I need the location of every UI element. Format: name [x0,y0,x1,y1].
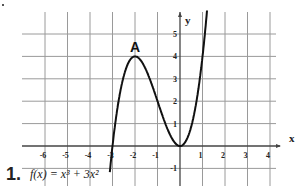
x-tick-label: -6 [40,151,47,160]
y-tick-label: 3 [173,75,177,84]
y-tick-label: 5 [173,30,177,39]
point-label-a: A [130,39,140,55]
x-tick-label: 1 [199,151,203,160]
y-tick-label: -1 [170,164,177,173]
problem-number: 1. [6,164,21,185]
y-tick-label: 1 [173,120,177,129]
x-axis-label: x [289,132,295,144]
x-tick-label: -4 [85,151,92,160]
x-tick-label: -5 [62,151,69,160]
x-tick-label: -2 [130,151,137,160]
function-formula: f(x) = x³ + 3x² [30,167,99,182]
x-tick-label: 2 [221,151,225,160]
y-tick-label: 2 [173,97,177,106]
x-tick-label: 4 [266,151,270,160]
y-tick-label: 4 [173,52,177,61]
y-axis-arrow-icon [178,12,182,17]
function-graph: -6-5-4-3-2-11234-112345xyA [0,0,306,186]
x-tick-label: -1 [152,151,159,160]
function-curve [110,11,207,173]
y-axis-label: y [185,14,191,26]
x-axis-arrow-icon [276,144,281,148]
x-tick-label: 3 [244,151,248,160]
